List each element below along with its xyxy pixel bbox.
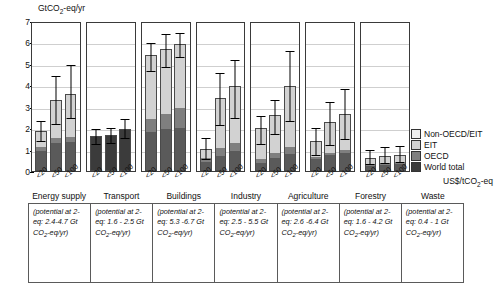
- bar-segment-oecd: [216, 148, 226, 155]
- bar-segment-oecd: [230, 143, 240, 151]
- error-bar-cap-high: [51, 76, 60, 77]
- error-bar-cap-high: [311, 128, 320, 129]
- panel-group: [31, 22, 410, 172]
- panel-industry: [196, 22, 246, 172]
- bar-group: [197, 23, 245, 171]
- sector-note-cell: (potential at 2-eq: 5.3 -6.7 Gt CO2-eq/y…: [153, 204, 215, 282]
- stacked-bar[interactable]: [145, 55, 157, 171]
- error-bar-cap-low: [256, 144, 265, 145]
- legend-label: EIT: [424, 140, 437, 150]
- y-axis-tick-label: 6: [10, 39, 30, 47]
- error-bar: [125, 120, 126, 139]
- error-bar: [315, 129, 316, 156]
- mitigation-potential-figure: GtCO2-eq/yr 76543210 <20<50<100<20<50<10…: [0, 0, 495, 289]
- error-bar-cap-low: [326, 145, 335, 146]
- error-bar-cap-low: [340, 139, 349, 140]
- error-bar-cap-low: [92, 144, 101, 145]
- legend-swatch: [411, 129, 421, 139]
- sector-note-table: Energy supplyTransportBuildingsIndustryA…: [28, 191, 464, 283]
- error-bar-cap-low: [147, 71, 156, 72]
- error-bar-cap-high: [326, 102, 335, 103]
- error-bar-cap-low: [37, 141, 46, 142]
- stacked-bar[interactable]: [174, 44, 186, 171]
- sector-note-cell: (potential at 2-eq: 2.6 -6.4 Gt CO2-eq/y…: [278, 204, 340, 282]
- legend-swatch: [411, 151, 421, 161]
- bar-slot: [394, 23, 406, 171]
- sector-header-transport: Transport: [90, 191, 152, 203]
- bar-group: [306, 23, 354, 171]
- bar-slot: [229, 23, 241, 171]
- bar-slot: [339, 23, 351, 171]
- panel-forestry: [305, 22, 355, 172]
- y-axis-title: GtCO2-eq/yr: [38, 3, 85, 15]
- error-bar: [165, 35, 166, 69]
- error-bar-cap-high: [256, 116, 265, 117]
- error-bar-cap-high: [176, 33, 185, 34]
- error-bar-cap-high: [271, 100, 280, 101]
- sector-header-buildings: Buildings: [153, 191, 215, 203]
- error-bar-cap-high: [66, 65, 75, 66]
- bar-segment-world: [161, 129, 171, 170]
- sector-note-cell: (potential at 2-eq: 2.5 - 5.5 Gt CO2-eq/…: [215, 204, 277, 282]
- error-bar-cap-high: [395, 146, 404, 147]
- bar-slot: [160, 23, 172, 171]
- error-bar-cap-high: [216, 73, 225, 74]
- sector-note-cell: (potential at 2-eq: 1.6 - 4.2 Gt CO2-eq/…: [340, 204, 402, 282]
- legend-item: OECD: [411, 150, 493, 161]
- bar-segment-oecd: [146, 119, 156, 131]
- error-bar-cap-high: [37, 121, 46, 122]
- error-bar: [96, 130, 97, 145]
- sector-header-energy-supply: Energy supply: [28, 191, 90, 203]
- sector-note-cell: (potential at 2-eq: 0.4 - 1 Gt CO2-eq/yr…: [402, 204, 463, 282]
- x-axis-unit-tail: -eq: [481, 176, 493, 186]
- sector-header-row: Energy supplyTransportBuildingsIndustryA…: [28, 191, 464, 203]
- chart-area: GtCO2-eq/yr 76543210 <20<50<100<20<50<10…: [0, 0, 495, 196]
- error-bar: [151, 44, 152, 71]
- y-axis-title-tail: -eq/yr: [63, 3, 85, 13]
- error-bar-cap-low: [201, 159, 210, 160]
- bar-slot: [174, 23, 186, 171]
- legend-label: OECD: [424, 151, 449, 161]
- legend-item: EIT: [411, 139, 493, 150]
- error-bar-cap-low: [285, 121, 294, 122]
- error-bar: [235, 61, 236, 119]
- error-bar-cap-high: [201, 138, 210, 139]
- sector-note-cell: (potential at 2-eq: 2.4-4.7 Gt CO2-eq/yr…: [29, 204, 91, 282]
- error-bar: [275, 101, 276, 135]
- bar-slot: [50, 23, 62, 171]
- panel-energy-supply: [31, 22, 81, 172]
- y-axis-tick-label: 1: [10, 147, 30, 155]
- bar-slot: [90, 23, 102, 171]
- bar-slot: [379, 23, 391, 171]
- bar-group: [361, 23, 409, 171]
- bar-group: [142, 23, 190, 171]
- error-bar: [180, 34, 181, 58]
- error-bar-cap-low: [106, 143, 115, 144]
- y-axis-tick-label: 4: [10, 82, 30, 90]
- bar-slot: [200, 23, 212, 171]
- error-bar-cap-high: [285, 51, 294, 52]
- bar-slot: [105, 23, 117, 171]
- bar-slot: [35, 23, 47, 171]
- error-bar-cap-high: [147, 43, 156, 44]
- error-bar: [385, 148, 386, 164]
- sector-note-row: (potential at 2-eq: 2.4-4.7 Gt CO2-eq/yr…: [28, 203, 464, 283]
- error-bar-cap-low: [381, 163, 390, 164]
- error-bar: [330, 103, 331, 145]
- sector-header-waste: Waste: [402, 191, 464, 203]
- error-bar: [289, 52, 290, 123]
- y-axis-tick-label: 0: [10, 168, 30, 176]
- error-bar: [260, 117, 261, 144]
- error-bar-cap-low: [366, 164, 375, 165]
- error-bar: [41, 122, 42, 142]
- y-axis-title-text: GtCO: [38, 3, 60, 13]
- bar-group: [87, 23, 135, 171]
- bar-slot: [269, 23, 281, 171]
- panel-agriculture: [250, 22, 300, 172]
- sector-header-agriculture: Agriculture: [277, 191, 339, 203]
- error-bar: [70, 66, 71, 119]
- panel-waste: [360, 22, 410, 172]
- legend-item: Non-OECD/EIT: [411, 128, 493, 139]
- error-bar-cap-low: [161, 67, 170, 68]
- error-bar-cap-high: [366, 150, 375, 151]
